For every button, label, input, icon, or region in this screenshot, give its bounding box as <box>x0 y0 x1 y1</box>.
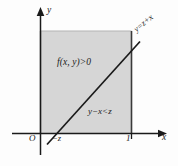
inequality-label: y−x<z <box>88 107 112 116</box>
math-figure: f(x, y)>0 y=z+x y−x<z O −z 1 x y <box>0 0 178 166</box>
region-label: f(x, y)>0 <box>57 58 91 68</box>
minus-z-tick-label: −z <box>52 134 61 143</box>
origin-label: O <box>29 134 36 143</box>
x-axis-label: x <box>162 133 166 143</box>
one-tick-label: 1 <box>126 134 131 143</box>
shaded-region <box>41 31 132 134</box>
y-axis-arrowhead <box>37 7 45 16</box>
y-axis-label: y <box>47 6 51 16</box>
figure-canvas <box>0 0 178 166</box>
